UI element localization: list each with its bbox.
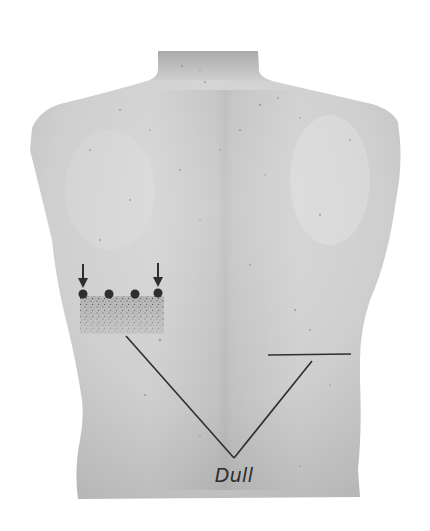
dot-1 bbox=[79, 290, 88, 299]
right-scapula-highlight bbox=[290, 115, 370, 245]
back-illustration bbox=[0, 0, 430, 531]
dot-3 bbox=[131, 290, 140, 299]
horizontal-line bbox=[268, 354, 351, 355]
dot-4 bbox=[154, 289, 163, 298]
stippled-dull-area bbox=[80, 296, 164, 334]
neck bbox=[150, 51, 272, 81]
left-scapula-highlight bbox=[65, 130, 155, 250]
spine-shading bbox=[150, 90, 300, 490]
dot-2 bbox=[105, 290, 114, 299]
figure: Dull bbox=[0, 0, 430, 531]
dull-label: Dull bbox=[215, 464, 253, 486]
